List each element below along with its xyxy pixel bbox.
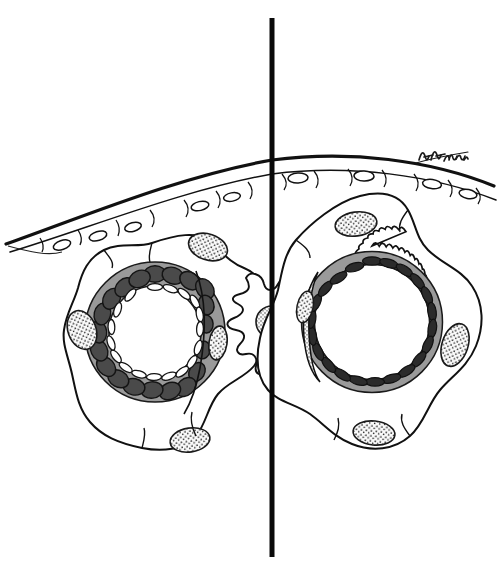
right-wall-band [302,252,443,393]
histology-figure: Comparative cross-section diagram Hand-d… [0,0,499,572]
figure-canvas [0,0,499,572]
